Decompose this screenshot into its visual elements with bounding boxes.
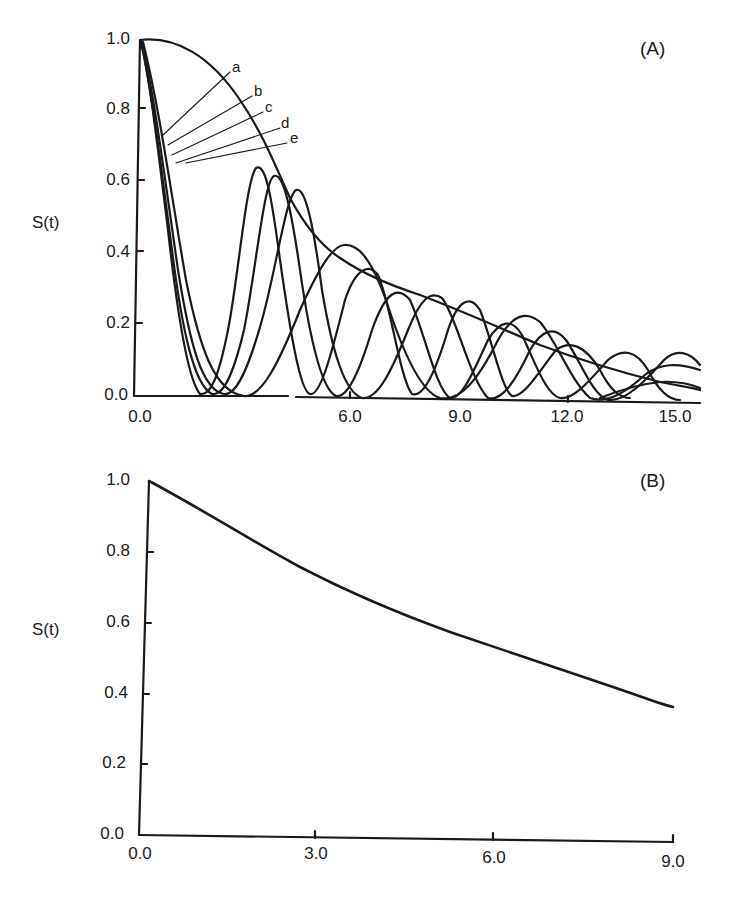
curve-label-b: b [254,82,262,99]
x-tick-label: 6.0 [464,848,524,868]
chart-panel-a: (A) S(t) 1.0 0.8 0.6 0.4 0.2 0.0 0.0 6.0… [0,0,733,440]
curve-label-a: a [232,58,240,75]
y-tick-label: 0.8 [90,99,130,119]
x-tick-label: 0.0 [110,407,170,427]
x-tick-label: 9.0 [643,852,703,872]
chart-a-plot [0,0,733,440]
y-tick-label: 0.2 [90,313,130,333]
y-tick-label: 0.2 [86,753,126,773]
y-tick-label: 0.6 [90,170,130,190]
x-tick-label: 3.0 [286,844,346,864]
panel-tag-a: (A) [640,38,665,60]
x-tick-label: 0.0 [110,844,170,864]
curve-label-e: e [290,129,298,146]
x-tick-label: 12.0 [537,407,597,427]
y-tick-label: 0.4 [90,242,130,262]
x-axis-a-right [296,397,700,403]
y-tick-label: 1.0 [90,29,130,49]
x-tick-label: 15.0 [645,407,705,427]
y-tick-label: 0.4 [88,683,128,703]
x-tick-label: 6.0 [320,407,380,427]
chart-panel-b: (B) S(t) 1.0 0.8 0.6 0.4 0.2 0.0 0.0 3.0… [0,440,733,902]
curve-label-d: d [281,114,289,131]
y-axis-label-b: S(t) [32,620,59,640]
curve-label-c: c [265,98,273,115]
y-axis-label-a: S(t) [32,213,59,233]
y-axis-a [134,40,140,396]
x-axis-b [139,835,673,842]
y-tick-label: 0.8 [90,541,130,561]
y-tick-label: 0.0 [84,824,124,844]
panel-tag-b: (B) [640,470,665,492]
y-axis-b [139,481,149,835]
x-tick-label: 9.0 [430,407,490,427]
y-tick-label: 1.0 [90,470,130,490]
y-tick-label: 0.0 [88,385,128,405]
y-tick-label: 0.6 [90,612,130,632]
